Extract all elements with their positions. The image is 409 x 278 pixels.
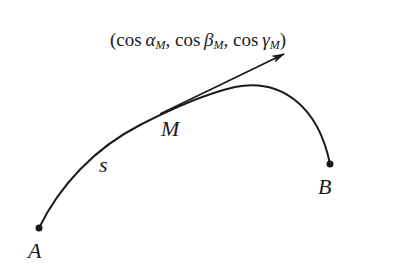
gamma-symbol: γ (262, 29, 270, 50)
point-a-label: A (28, 240, 41, 262)
direction-cosines-label: (cos αM, cos βM, cos γM) (110, 30, 286, 51)
separator: , (165, 29, 175, 50)
alpha-symbol: α (145, 29, 155, 50)
close-paren: ) (280, 29, 286, 50)
curve-path (39, 85, 330, 228)
cos-gamma-func: cos (233, 29, 258, 50)
beta-subscript: M (214, 38, 224, 52)
arc-length-s-label: s (99, 154, 108, 176)
cos-alpha-func: cos (116, 29, 141, 50)
tangent-vector-arrow (160, 54, 284, 114)
separator: , (224, 29, 234, 50)
gamma-subscript: M (270, 38, 280, 52)
point-b-dot (327, 161, 334, 168)
alpha-subscript: M (155, 38, 165, 52)
beta-symbol: β (204, 29, 213, 50)
point-a-dot (36, 225, 43, 232)
cos-beta-func: cos (175, 29, 200, 50)
point-b-label: B (318, 176, 331, 198)
point-m-label: M (161, 118, 179, 140)
